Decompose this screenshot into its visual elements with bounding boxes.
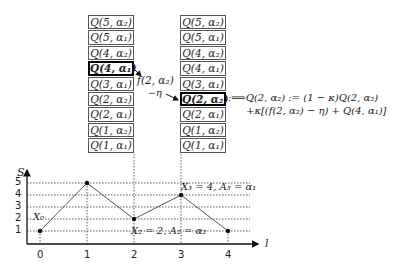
- x-axis-label: l: [265, 237, 269, 250]
- x-tick: 1: [84, 249, 90, 260]
- y-tick: 2: [15, 212, 21, 223]
- y-tick: 4: [15, 188, 21, 199]
- y-tick: 1: [15, 224, 21, 235]
- x-tick: 3: [178, 249, 184, 260]
- annotation-x2: X₂ = 2, A₂ = α₂: [131, 225, 206, 236]
- annotation-x3: X₃ = 4, A₃ = α₁: [181, 181, 256, 192]
- annotation-x0: X₀: [33, 211, 44, 222]
- arrow-q-to-reward: [135, 70, 141, 76]
- arrow-penalty-to-q: [166, 94, 178, 100]
- x-tick: 2: [131, 249, 137, 260]
- x-tick: 0: [37, 249, 43, 260]
- x-tick: 4: [225, 249, 231, 260]
- y-tick: 3: [15, 200, 21, 211]
- y-tick: 5: [15, 176, 21, 187]
